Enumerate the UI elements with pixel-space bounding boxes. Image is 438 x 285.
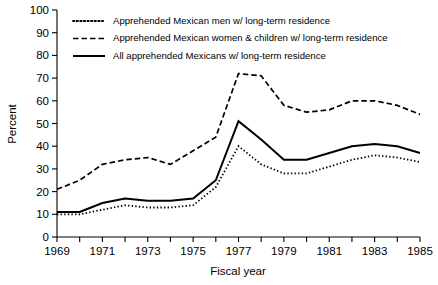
y-tick-label: 30 [36, 163, 49, 175]
y-tick-label: 70 [36, 72, 49, 84]
line-chart: 0102030405060708090100 19691971197319751… [0, 0, 438, 285]
y-tick-label: 90 [36, 27, 49, 39]
legend-label: All apprehended Mexicans w/ long-term re… [113, 50, 326, 61]
x-tick-label: 1975 [180, 245, 206, 257]
y-axis-tick-labels: 0102030405060708090100 [30, 4, 49, 243]
y-axis-ticks [52, 10, 57, 237]
y-tick-label: 20 [36, 186, 49, 198]
x-tick-label: 1981 [316, 245, 342, 257]
series-line-2 [57, 121, 420, 212]
legend-label: Apprehended Mexican women & children w/ … [113, 32, 388, 43]
y-tick-label: 10 [36, 208, 49, 220]
y-tick-label: 0 [43, 231, 49, 243]
y-tick-label: 40 [36, 140, 49, 152]
x-tick-label: 1971 [90, 245, 116, 257]
y-tick-label: 100 [30, 4, 49, 16]
y-tick-label: 50 [36, 118, 49, 130]
series-line-1 [57, 74, 420, 190]
x-tick-label: 1979 [271, 245, 297, 257]
x-tick-label: 1973 [135, 245, 161, 257]
x-axis-ticks [57, 237, 420, 242]
x-tick-label: 1969 [44, 245, 70, 257]
x-axis-title: Fiscal year [210, 265, 266, 277]
series-line-0 [57, 146, 420, 214]
x-tick-label: 1977 [226, 245, 252, 257]
x-axis-tick-labels: 196919711973197519771979198119831985 [44, 245, 433, 257]
chart-container: 0102030405060708090100 19691971197319751… [0, 0, 438, 285]
series-lines [57, 74, 420, 215]
x-tick-label: 1985 [407, 245, 433, 257]
legend: Apprehended Mexican men w/ long-term res… [73, 15, 388, 61]
y-tick-label: 80 [36, 49, 49, 61]
y-axis-title: Percent [6, 103, 18, 143]
legend-label: Apprehended Mexican men w/ long-term res… [113, 15, 330, 26]
x-tick-label: 1983 [362, 245, 388, 257]
y-tick-label: 60 [36, 95, 49, 107]
